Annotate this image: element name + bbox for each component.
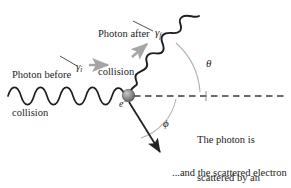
compton-scattering-figure: Photon after collision Photon before col… bbox=[0, 0, 291, 188]
label-photon-before-line1: Photon before bbox=[12, 69, 71, 82]
label-photon-before: Photon before collision bbox=[12, 43, 71, 145]
phi-angle-arc bbox=[141, 99, 176, 138]
label-photon-before-line2: collision bbox=[12, 107, 71, 120]
label-phi-angle: ϕ bbox=[163, 117, 169, 129]
caption-photon-line1: The photon is bbox=[197, 134, 269, 147]
label-photon-after: Photon after collision bbox=[98, 2, 150, 104]
label-gamma-initial: γi bbox=[76, 60, 82, 74]
caption-scattered-electron: ...and the scattered electron bbox=[172, 167, 287, 180]
theta-angle-arc bbox=[176, 43, 200, 92]
label-theta-angle: θ bbox=[206, 57, 211, 69]
label-electron: e− bbox=[119, 98, 127, 109]
label-photon-after-line2: collision bbox=[98, 66, 150, 79]
electron-charge-superscript: − bbox=[123, 98, 127, 106]
gamma-initial-subscript: i bbox=[80, 65, 82, 74]
label-gamma-final: γf bbox=[155, 26, 161, 40]
electron-track-arrow bbox=[129, 102, 160, 152]
label-photon-after-line1: Photon after bbox=[98, 28, 150, 41]
gamma-final-subscript: f bbox=[159, 31, 161, 40]
